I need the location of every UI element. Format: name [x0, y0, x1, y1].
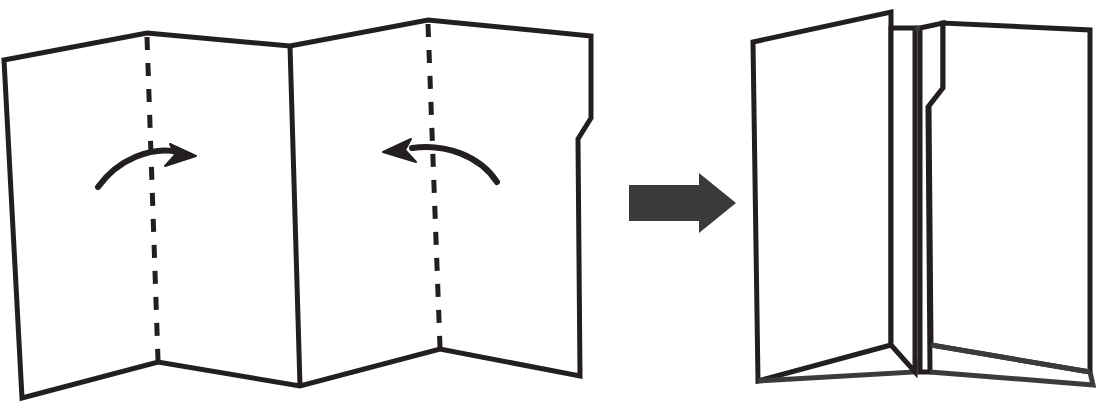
- map-folding-diagram: [0, 0, 1104, 415]
- figure-root: Map folding instruction diagram A flat a…: [0, 0, 1104, 415]
- folded-flap-inner-left: [891, 28, 915, 372]
- folded-panel-right-base: [930, 372, 1093, 385]
- folded-map: [753, 12, 1093, 385]
- unfolded-map: [4, 20, 591, 398]
- folded-panel-left: [753, 12, 891, 381]
- folded-panel-right: [929, 23, 1090, 372]
- transition-arrow: [629, 173, 736, 233]
- transition-arrow-shape: [629, 173, 736, 233]
